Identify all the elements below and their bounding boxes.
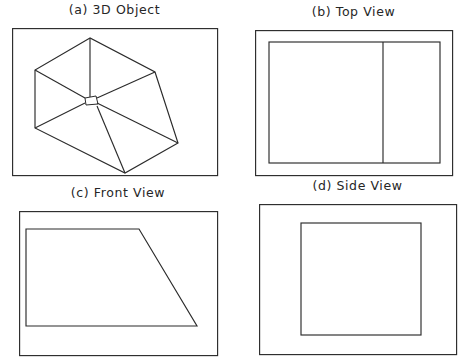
svg-3d-object (12, 28, 219, 177)
svg-front-view (19, 211, 219, 357)
panel-top-view: (b) Top View (255, 4, 452, 175)
frame-border-front-view (20, 212, 218, 356)
panel-caption-top-view: (b) Top View (255, 4, 452, 19)
panel-side-view: (d) Side View (259, 178, 456, 354)
panel-caption-front-view: (c) Front View (19, 185, 217, 200)
panel-3d-object: (a) 3D Object (12, 2, 217, 175)
panel-canvas-front-view (19, 211, 219, 357)
panel-caption-side-view: (d) Side View (259, 178, 456, 193)
svg-side-view (259, 204, 458, 356)
panel-canvas-top-view (255, 30, 454, 177)
figure-root: (a) 3D Object (b) Top View (0, 0, 467, 362)
panel-front-view: (c) Front View (19, 185, 217, 355)
panel-canvas-3d-object (12, 28, 219, 177)
frame-border-side-view (260, 205, 457, 355)
panel-canvas-side-view (259, 204, 458, 356)
svg-top-view (255, 30, 454, 177)
panel-caption-3d-object: (a) 3D Object (12, 2, 217, 17)
frame-border-top-view (256, 31, 453, 176)
